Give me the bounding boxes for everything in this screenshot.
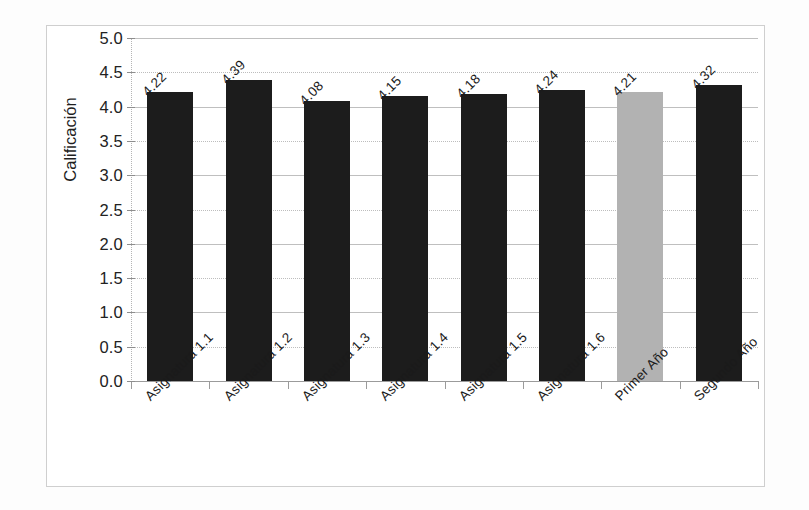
- y-axis-tick-label: 3.0: [79, 167, 123, 184]
- x-axis-tick-mark: [288, 381, 289, 389]
- x-axis-tick-mark: [601, 381, 602, 389]
- y-axis-tick-label: 3.5: [79, 133, 123, 150]
- bar: [617, 92, 663, 381]
- bar: [461, 94, 507, 381]
- y-axis-tick-mark: [127, 141, 135, 142]
- y-axis-tick-mark: [127, 244, 135, 245]
- y-axis-tick-mark: [127, 175, 135, 176]
- x-axis-tick-mark: [680, 381, 681, 389]
- page-canvas: Calificación 0.00.51.01.52.02.53.03.54.0…: [0, 0, 809, 510]
- x-axis-tick-mark: [523, 381, 524, 389]
- bar: [696, 85, 742, 381]
- bar: [539, 90, 585, 381]
- y-axis-tick-label: 2.0: [79, 236, 123, 253]
- x-axis-tick-mark: [445, 381, 446, 389]
- x-axis-tick-mark: [366, 381, 367, 389]
- y-axis-tick-mark: [127, 210, 135, 211]
- y-axis-tick-label: 4.0: [79, 98, 123, 115]
- y-axis-tick-label: 5.0: [79, 30, 123, 47]
- y-axis-tick-labels: 0.00.51.01.52.02.53.03.54.04.55.0: [75, 38, 123, 381]
- bar: [226, 80, 272, 381]
- y-axis-tick-label: 1.5: [79, 270, 123, 287]
- y-axis-tick-mark: [127, 381, 135, 382]
- y-axis-tick-label: 1.0: [79, 304, 123, 321]
- y-axis-tick-label: 2.5: [79, 201, 123, 218]
- y-axis-tick-label: 0.0: [79, 373, 123, 390]
- y-axis-tick-mark: [127, 107, 135, 108]
- y-axis-tick-mark: [127, 312, 135, 313]
- y-axis-tick-mark: [127, 278, 135, 279]
- y-axis-tick-label: 0.5: [79, 338, 123, 355]
- x-axis-tick-mark: [209, 381, 210, 389]
- bar: [147, 92, 193, 381]
- y-axis-tick-label: 4.5: [79, 64, 123, 81]
- bar: [304, 101, 350, 381]
- y-axis-tick-mark: [127, 38, 135, 39]
- bar: [382, 96, 428, 381]
- x-axis-tick-mark: [758, 381, 759, 389]
- gridline: [131, 38, 758, 39]
- plot-area: [131, 38, 758, 381]
- x-axis-tick-mark: [131, 381, 132, 389]
- y-axis-tick-mark: [127, 347, 135, 348]
- y-axis-tick-mark: [127, 72, 135, 73]
